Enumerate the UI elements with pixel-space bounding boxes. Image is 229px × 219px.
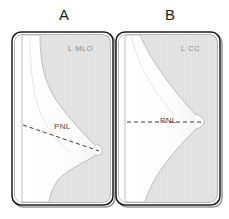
panel-a-mlo — [12, 32, 115, 207]
diagram-canvas — [0, 0, 229, 219]
panel-a-view-label: L MLO — [68, 45, 93, 53]
panel-a-pnl-label: PNL — [54, 123, 70, 131]
panel-b-pnl-label: PNL — [160, 117, 176, 125]
panel-b-view-label: L CC — [181, 45, 200, 53]
panel-a-chestwall-strip — [15, 35, 22, 202]
mammogram-pnl-diagram: A B L MLO L CC PNL PNL — [0, 0, 229, 219]
panel-b-letter: B — [155, 7, 185, 22]
panel-a-letter: A — [49, 7, 79, 22]
panel-b-chestwall-strip — [119, 35, 125, 202]
